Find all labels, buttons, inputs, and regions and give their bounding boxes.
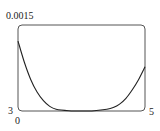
data-curve [18, 41, 145, 111]
plot-area [0, 0, 160, 131]
